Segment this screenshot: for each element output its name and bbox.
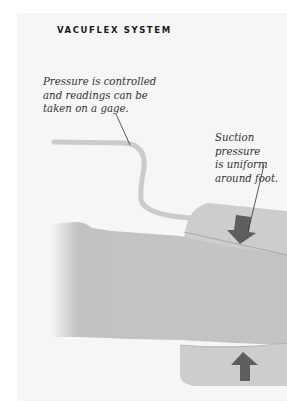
caption-suction: Suction pressure is uniform around foot. bbox=[215, 131, 287, 185]
vacuflex-illustration bbox=[0, 0, 287, 404]
leader-line-gage bbox=[116, 114, 130, 145]
pressure-tube bbox=[54, 142, 190, 218]
caption-gage: Pressure is controlled and readings can … bbox=[43, 75, 173, 116]
